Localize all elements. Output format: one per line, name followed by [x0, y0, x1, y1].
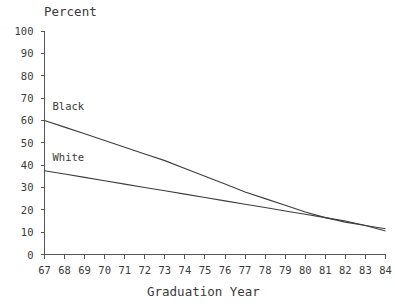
- x-axis-tick-label: 82: [334, 265, 356, 276]
- y-axis-tick-label: 90: [8, 48, 34, 59]
- x-axis-tick-label: 77: [234, 265, 256, 276]
- x-axis-tick-label: 81: [314, 265, 336, 276]
- x-axis-tick-label: 73: [154, 265, 176, 276]
- y-axis-tick-label: 40: [8, 160, 34, 171]
- chart-canvas: Percent Graduation Year 0102030405060708…: [0, 0, 395, 307]
- x-axis-tick-label: 76: [214, 265, 236, 276]
- x-axis-tick-label: 70: [94, 265, 116, 276]
- series-label-black: Black: [53, 101, 85, 112]
- axes-group: [45, 31, 386, 255]
- y-axis-tick-label: 0: [8, 250, 34, 261]
- y-axis-tick-label: 20: [8, 205, 34, 216]
- x-axis-tick-label: 68: [54, 265, 76, 276]
- y-axis-tick-label: 100: [8, 26, 34, 37]
- y-axis-tick-label: 70: [8, 93, 34, 104]
- x-axis-tick-label: 71: [114, 265, 136, 276]
- x-axis-tick-label: 75: [194, 265, 216, 276]
- y-axis-tick-label: 10: [8, 227, 34, 238]
- ticks-group: [41, 31, 386, 259]
- x-axis-tick-label: 67: [34, 265, 56, 276]
- x-axis-tick-label: 74: [174, 265, 196, 276]
- y-axis-tick-label: 80: [8, 71, 34, 82]
- y-axis-tick-label: 30: [8, 182, 34, 193]
- x-axis-tick-label: 80: [294, 265, 316, 276]
- series-label-white: White: [53, 152, 85, 163]
- x-axis-tick-label: 83: [354, 265, 376, 276]
- y-axis-tick-label: 50: [8, 138, 34, 149]
- x-axis-tick-label: 69: [74, 265, 96, 276]
- series-group: [45, 120, 386, 231]
- x-axis-tick-label: 79: [274, 265, 296, 276]
- x-axis-tick-label: 78: [254, 265, 276, 276]
- x-axis-tick-label: 72: [134, 265, 156, 276]
- y-axis-tick-label: 60: [8, 115, 34, 126]
- x-axis-tick-label: 84: [375, 265, 395, 276]
- series-line-black: [45, 120, 386, 228]
